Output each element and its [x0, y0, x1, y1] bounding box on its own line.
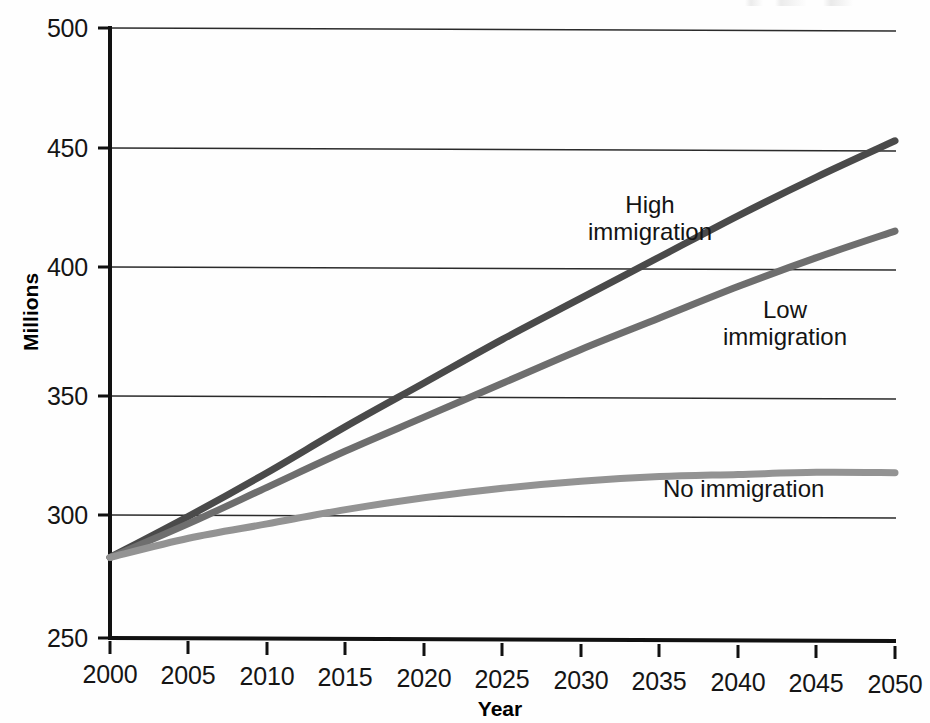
line-chart-canvas: [0, 0, 930, 723]
x-tick-2025: 2025: [457, 665, 547, 694]
y-axis-title: Millions: [19, 257, 43, 367]
x-tick-2040: 2040: [693, 668, 783, 697]
x-tick-2015: 2015: [300, 663, 390, 692]
cropped-title-artifact: [745, 0, 895, 6]
x-tick-2020: 2020: [379, 664, 469, 693]
x-tick-2010: 2010: [222, 662, 312, 691]
annotation-low-immigration: Low immigration: [690, 297, 880, 351]
annotation-no-immigration: No immigration: [663, 476, 883, 503]
x-tick-2005: 2005: [143, 661, 233, 690]
y-tick-500: 500: [18, 14, 88, 43]
chart-figure: 500 450 400 350 300 250 2000 2005 2010 2…: [0, 0, 930, 723]
x-tick-2035: 2035: [614, 667, 704, 696]
y-axis: [98, 26, 110, 640]
y-tick-250: 250: [18, 624, 88, 653]
y-tick-450: 450: [18, 134, 88, 163]
x-axis-title: Year: [455, 697, 545, 721]
y-tick-300: 300: [18, 501, 88, 530]
x-tick-2045: 2045: [771, 669, 861, 698]
x-tick-2030: 2030: [536, 666, 626, 695]
x-tick-2050: 2050: [850, 670, 930, 699]
x-tick-2000: 2000: [65, 660, 155, 689]
x-axis: [108, 638, 896, 659]
y-tick-350: 350: [18, 382, 88, 411]
series-line-low-immigration: [110, 231, 895, 557]
annotation-high-immigration: High immigration: [560, 192, 740, 246]
